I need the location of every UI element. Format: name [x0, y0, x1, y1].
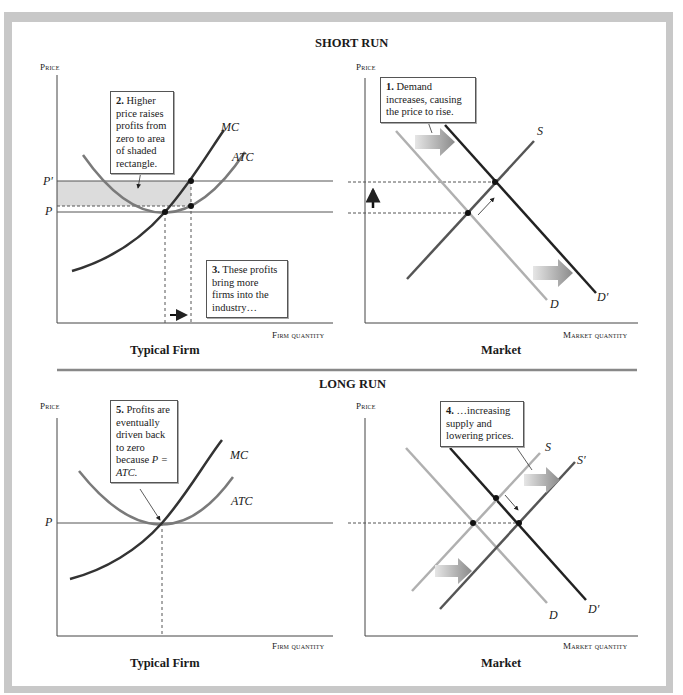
sr-firm-graph [57, 75, 333, 323]
supply-s [407, 141, 534, 279]
callout-3-number: 3. [212, 264, 220, 275]
lr-market-title: Market [481, 656, 521, 671]
sr-market-x-axis-label: Market quantity [563, 330, 627, 340]
lr-market-y-axis-label: Price [356, 401, 376, 411]
label-d-prime: D′ [597, 290, 608, 305]
lr-firm-graph [57, 418, 333, 636]
shift-arrow-demand [415, 128, 455, 156]
sr-market-y-axis-label: Price [356, 62, 376, 72]
label-s: S [537, 124, 543, 139]
callout-1-text: Demand increases, causing the price to r… [386, 81, 462, 117]
callout-1: 1. Demand increases, causing the price t… [380, 77, 476, 123]
label-d-lr: D [549, 608, 558, 623]
callout-2-text: Higher price raises profits from zero to… [116, 95, 166, 169]
lr-firm-title: Typical Firm [130, 656, 200, 671]
label-atc: ATC [232, 150, 254, 165]
section-title-short-run: SHORT RUN [315, 36, 388, 51]
profit-rectangle [57, 181, 191, 206]
callout-3: 3. These profits bring more firms into t… [206, 260, 288, 318]
callout-2-number: 2. [116, 95, 124, 106]
label-mc-lr: MC [230, 448, 248, 463]
callout-5-number: 5. [116, 404, 124, 415]
label-p-lr: P [45, 515, 52, 530]
demand-d-prime [445, 125, 596, 293]
lr-market-x-axis-label: Market quantity [563, 641, 627, 651]
label-p: P [45, 204, 52, 219]
lr-firm-y-axis-label: Price [40, 401, 60, 411]
sr-market-title: Market [481, 343, 521, 358]
callout-4-number: 4. [446, 405, 454, 416]
label-mc: MC [221, 120, 239, 135]
callout-5: 5. Profits are eventually driven back to… [110, 400, 178, 483]
label-d: D [550, 297, 559, 312]
label-s-lr: S [545, 440, 551, 455]
label-s-prime-lr: S′ [577, 453, 586, 468]
label-atc-lr: ATC [231, 494, 253, 509]
callout-2: 2. Higher price raises profits from zero… [110, 91, 174, 174]
sr-firm-y-axis-label: Price [40, 62, 60, 72]
lr-firm-x-axis-label: Firm quantity [272, 641, 324, 651]
sr-firm-title: Typical Firm [130, 343, 200, 358]
sr-firm-x-axis-label: Firm quantity [272, 330, 324, 340]
label-d-prime-lr: D′ [588, 602, 599, 617]
shift-arrow-demand-2 [533, 259, 573, 287]
label-p-prime: P′ [43, 174, 53, 189]
callout-1-number: 1. [386, 81, 394, 92]
section-title-long-run: LONG RUN [319, 377, 386, 392]
callout-3-text: These profits bring more firms into the … [212, 264, 277, 313]
diagram-graphics [0, 0, 683, 695]
callout-4-text: …increasing supply and lowering prices. [446, 405, 514, 441]
callout-4: 4. …increasing supply and lowering price… [440, 401, 524, 447]
